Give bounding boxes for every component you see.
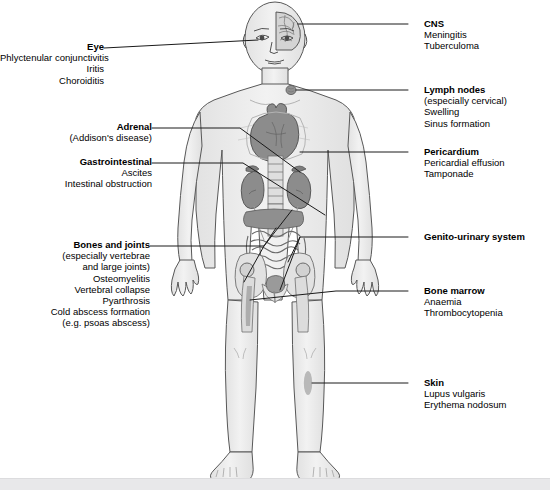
cervical-lymph-node [286, 85, 296, 94]
label-bones-and-joints-line-0: (especially vertebrae [0, 250, 150, 261]
label-bone-marrow-line-1: Thrombocytopenia [424, 307, 503, 318]
label-skin-heading: Skin [424, 377, 506, 388]
label-eye-line-2: Choroiditis [0, 75, 104, 86]
label-bones-and-joints-line-1: and large joints) [0, 261, 150, 272]
label-pericardium-line-1: Tamponade [424, 168, 505, 179]
label-bones-and-joints-heading: Bones and joints [0, 239, 150, 250]
label-lymph-nodes-line-2: Sinus formation [424, 118, 507, 129]
diagram-canvas: Eye Phlyctenular conjunctivitis Iritis C… [0, 0, 550, 490]
label-pericardium-line-0: Pericardial effusion [424, 157, 505, 168]
leader-eye [104, 40, 258, 48]
label-adrenal: Adrenal (Addison's disease) [0, 121, 152, 143]
label-eye-line-1: Iritis [0, 63, 104, 74]
label-bones-and-joints-line-2: Osteomyelitis [0, 273, 150, 284]
skin-lesion-shin [304, 371, 312, 395]
label-gastrointestinal-line-0: Ascites [0, 167, 152, 178]
label-bone-marrow-line-0: Anaemia [424, 296, 503, 307]
label-eye-line-0: Phlyctenular conjunctivitis [0, 52, 104, 63]
label-genito-urinary-system-heading: Genito-urinary system [424, 231, 525, 242]
label-bones-and-joints-line-3: Vertebral collapse [0, 284, 150, 295]
label-adrenal-heading: Adrenal [0, 121, 152, 132]
label-eye-heading: Eye [0, 41, 104, 52]
label-gastrointestinal-heading: Gastrointestinal [0, 156, 152, 167]
label-skin-line-0: Lupus vulgaris [424, 388, 506, 399]
label-lymph-nodes-heading: Lymph nodes [424, 84, 507, 95]
transverse-colon [244, 209, 304, 229]
label-adrenal-line-0: (Addison's disease) [0, 132, 152, 143]
label-genito-urinary-system: Genito-urinary system [424, 231, 525, 242]
label-gastrointestinal-line-1: Intestinal obstruction [0, 178, 152, 189]
ground-band [0, 478, 550, 490]
label-lymph-nodes-line-0: (especially cervical) [424, 95, 507, 106]
label-cns-heading: CNS [424, 18, 479, 29]
label-cns: CNS Meningitis Tuberculoma [424, 18, 479, 52]
label-pericardium-heading: Pericardium [424, 146, 505, 157]
label-cns-line-0: Meningitis [424, 29, 479, 40]
label-bone-marrow: Bone marrow Anaemia Thrombocytopenia [424, 285, 503, 319]
label-bones-and-joints-line-6: (e.g. psoas abscess) [0, 317, 150, 328]
label-lymph-nodes: Lymph nodes (especially cervical) Swelli… [424, 84, 507, 129]
label-bones-and-joints-line-5: Cold abscess formation [0, 306, 150, 317]
label-bones-and-joints: Bones and joints (especially vertebrae a… [0, 239, 150, 329]
label-eye: Eye Phlyctenular conjunctivitis Iritis C… [0, 41, 104, 86]
label-bones-and-joints-line-4: Pyarthrosis [0, 295, 150, 306]
label-gastrointestinal: Gastrointestinal Ascites Intestinal obst… [0, 156, 152, 190]
label-skin-line-1: Erythema nodosum [424, 399, 506, 410]
body-silhouette [171, 2, 378, 479]
label-lymph-nodes-line-1: Swelling [424, 106, 507, 117]
kidney-right [287, 171, 311, 208]
label-cns-line-1: Tuberculoma [424, 40, 479, 51]
label-pericardium: Pericardium Pericardial effusion Tampona… [424, 146, 505, 180]
label-bone-marrow-heading: Bone marrow [424, 285, 503, 296]
label-skin: Skin Lupus vulgaris Erythema nodosum [424, 377, 506, 411]
